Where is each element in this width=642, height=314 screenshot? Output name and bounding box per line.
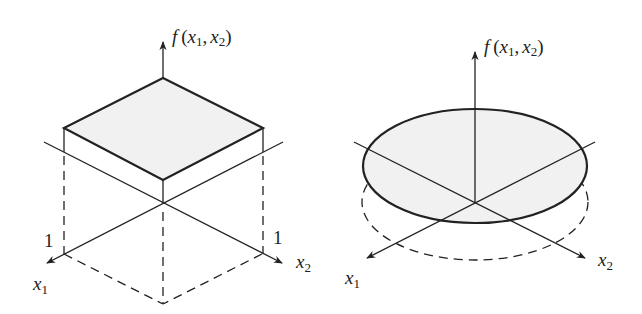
right-x1-axis-label: x1 [344, 267, 360, 291]
left-panel: f(x1,x2) 1 1 x1 x2 [32, 26, 311, 304]
left-plateau-square [64, 78, 263, 180]
left-x2-tick-label: 1 [273, 227, 283, 248]
left-x2-axis-label: x2 [295, 251, 311, 275]
joint-density-diagram: f(x1,x2) 1 1 x1 x2 f(x1,x2) x1 x2 [0, 0, 642, 314]
left-x1-axis-label: x1 [32, 273, 48, 297]
left-f-axis-label: f(x1,x2) [172, 26, 232, 49]
left-x1-tick-label: 1 [44, 230, 54, 251]
right-x2-axis-label: x2 [597, 249, 613, 273]
right-panel: f(x1,x2) x1 x2 [344, 36, 613, 291]
right-f-axis-label: f(x1,x2) [484, 36, 544, 59]
